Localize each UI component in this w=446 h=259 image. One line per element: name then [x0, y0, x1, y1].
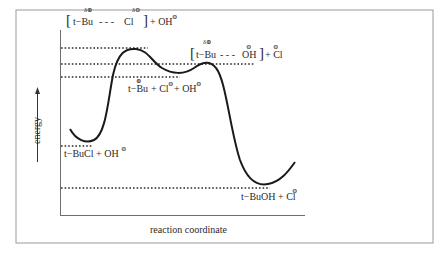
- svg-text:+ OH: + OH: [150, 16, 173, 27]
- svg-text:δ⊕: δ⊕: [203, 38, 212, 45]
- svg-text:+ Cl: + Cl: [151, 83, 169, 94]
- reactants-label: t−BuCl + OH ⊖: [64, 145, 126, 159]
- svg-text:⊖: ⊖: [246, 43, 251, 50]
- svg-text:]: ]: [259, 45, 264, 61]
- svg-text:+ Cl: + Cl: [265, 49, 283, 60]
- svg-text:δ⊖: δ⊖: [132, 6, 141, 13]
- svg-text:Cl: Cl: [124, 16, 134, 27]
- svg-text:⊕: ⊕: [136, 77, 141, 84]
- svg-text:⊖: ⊖: [121, 145, 126, 152]
- svg-text:t−BuOH + Cl: t−BuOH + Cl: [241, 191, 296, 202]
- svg-text:t−Bu: t−Bu: [128, 83, 148, 94]
- svg-text:⊖: ⊖: [273, 43, 278, 50]
- energy-profile-diagram: energy [ δ⊕ t−Bu - - - Cl δ⊖ ] + OH ⊖ [ …: [0, 0, 446, 259]
- svg-text:+ OH: + OH: [174, 83, 197, 94]
- energy-curve: [70, 49, 295, 185]
- svg-text:t−Bu: t−Bu: [196, 49, 216, 60]
- svg-text:δ⊕: δ⊕: [84, 6, 93, 13]
- ts2-label: [ δ⊕ t−Bu - - - OH ⊖ ] + Cl ⊖: [190, 38, 283, 61]
- svg-text:t−Bu: t−Bu: [73, 16, 93, 27]
- svg-text:[: [: [66, 12, 71, 28]
- svg-text:⊖: ⊖: [172, 13, 177, 20]
- products-label: t−BuOH + Cl ⊖: [241, 187, 297, 202]
- svg-text:- - -: - - -: [220, 49, 235, 60]
- svg-text:⊖: ⊖: [168, 80, 173, 87]
- figure-frame: [16, 10, 433, 243]
- y-axis-label: energy: [31, 117, 42, 144]
- x-axis-label: reaction coordinate: [150, 224, 227, 235]
- svg-text:⊖: ⊖: [196, 80, 201, 87]
- svg-text:⊖: ⊖: [292, 187, 297, 194]
- svg-text:- - -: - - -: [99, 16, 114, 27]
- svg-text:]: ]: [143, 12, 148, 28]
- intermediate-label: t−Bu ⊕ + Cl ⊖ + OH ⊖: [128, 77, 201, 94]
- svg-text:t−BuCl + OH: t−BuCl + OH: [64, 148, 119, 159]
- ts1-label: [ δ⊕ t−Bu - - - Cl δ⊖ ] + OH ⊖: [66, 6, 177, 28]
- svg-text:OH: OH: [242, 49, 256, 60]
- svg-text:[: [: [190, 45, 195, 61]
